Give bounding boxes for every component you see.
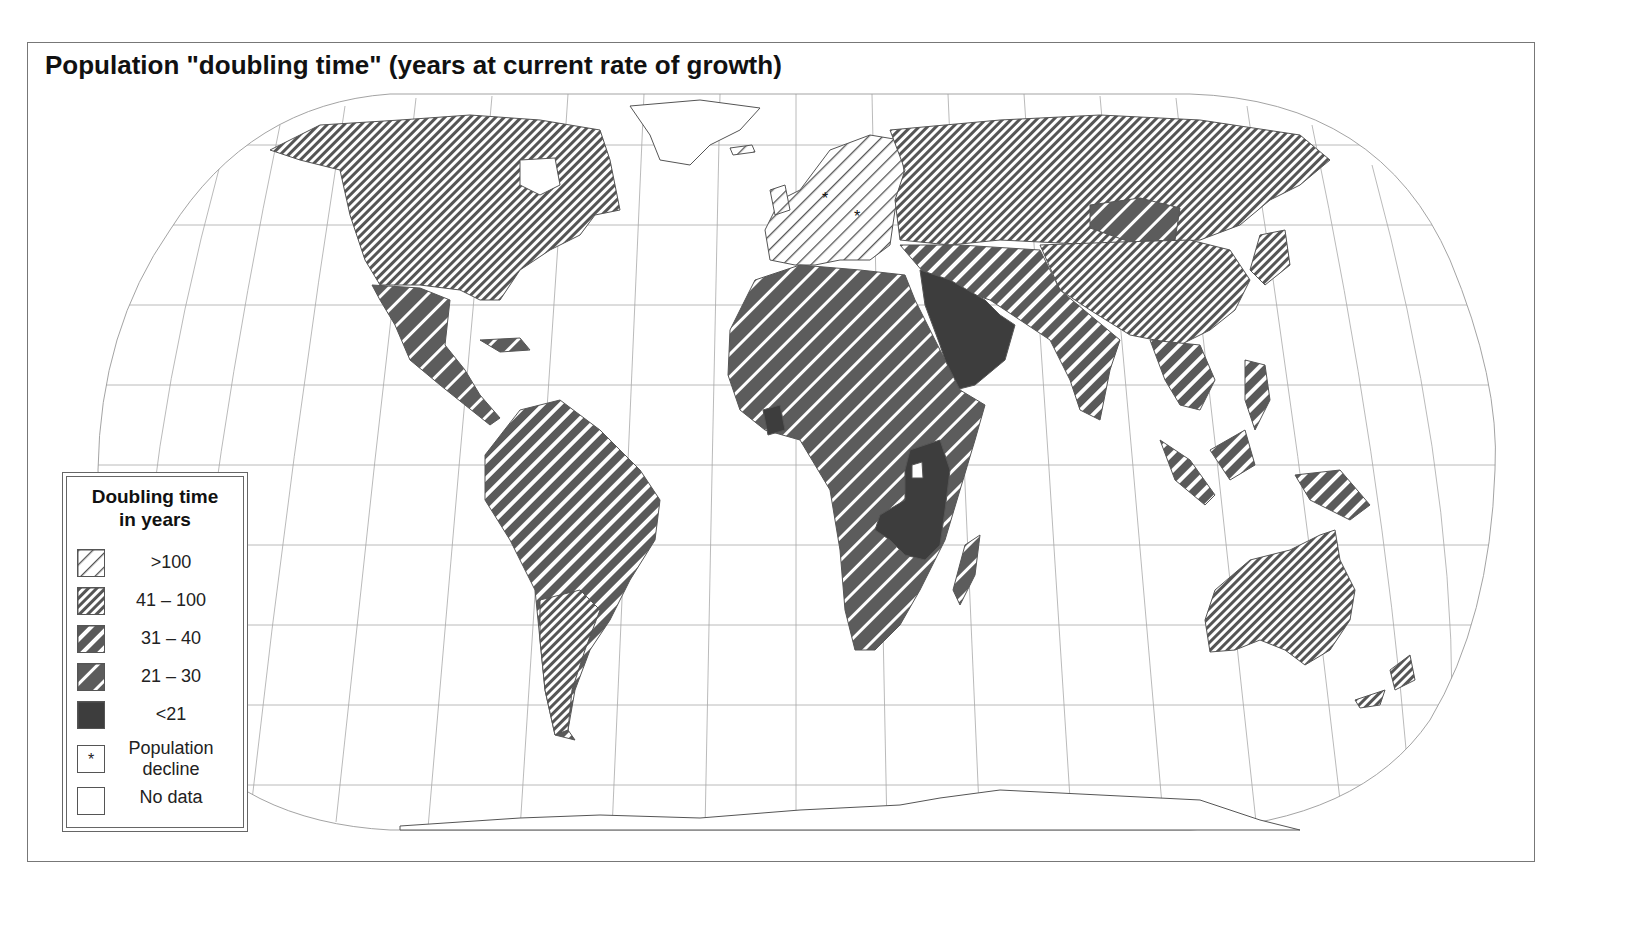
decline-marker: *	[822, 190, 828, 207]
decline-marker: *	[854, 208, 860, 225]
greenland	[630, 100, 760, 165]
legend-item-31-40: 31 – 40	[77, 625, 237, 653]
hatch-light-swatch-icon	[77, 549, 105, 577]
australia	[1205, 530, 1355, 665]
southeast-asia	[1150, 340, 1215, 410]
hatch-dark-swatch-icon	[77, 663, 105, 691]
legend-item-population-decline: * Population decline	[77, 745, 237, 773]
legend-item-41-100: 41 – 100	[77, 587, 237, 615]
asterisk-icon: *	[77, 745, 105, 773]
decline-label: Population decline	[115, 738, 227, 780]
legend-item-no-data: No data	[77, 787, 237, 815]
legend-item-21-30: 21 – 30	[77, 663, 237, 691]
madagascar	[953, 535, 980, 605]
legend: Doubling time in years >100 41 – 100 31 …	[62, 472, 248, 832]
hatch-fine-swatch-icon	[77, 587, 105, 615]
legend-item-over-100: >100	[77, 549, 237, 577]
legend-title: Doubling time in years	[63, 485, 247, 531]
hatch-medium-swatch-icon	[77, 625, 105, 653]
no-data-swatch-icon	[77, 787, 105, 815]
antarctica	[400, 790, 1300, 830]
mexico-central-america	[372, 285, 500, 425]
legend-item-under-21: <21	[77, 701, 237, 729]
solid-dark-swatch-icon	[77, 701, 105, 729]
north-america	[270, 115, 620, 300]
